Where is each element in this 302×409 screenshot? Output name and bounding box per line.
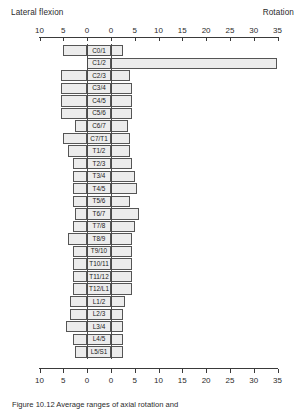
chart-row: T5/6 — [0, 196, 302, 209]
axis-tick-label: 5 — [132, 376, 136, 385]
axis-tick — [159, 369, 160, 373]
axis-tick — [254, 37, 255, 41]
axis-label-rotation: Rotation — [263, 8, 294, 17]
chart-row: C7/T1 — [0, 133, 302, 146]
bar-lateral-flexion — [61, 108, 87, 119]
bottom-axis-tick-labels: 105005101520253035 — [0, 376, 302, 386]
axis-tick — [278, 369, 279, 373]
bar-rotation — [111, 171, 135, 182]
chart-row: T12/L1 — [0, 283, 302, 296]
axis-tick-label: 30 — [249, 376, 258, 385]
segment-label: C6/7 — [92, 123, 106, 129]
top-axis: 105005101520253035 — [0, 26, 302, 44]
bar-lateral-flexion — [75, 208, 87, 219]
segment-label: T5/6 — [93, 198, 106, 204]
axis-tick-label: 10 — [35, 26, 44, 35]
figure-container: Lateral flexion Rotation 105005101520253… — [0, 0, 302, 409]
segment-label: T9/10 — [91, 248, 107, 254]
chart-row: L5/S1 — [0, 346, 302, 359]
segment-label: T11/12 — [89, 273, 108, 279]
chart-row: T1/2 — [0, 145, 302, 158]
axis-tick — [206, 37, 207, 41]
bar-rotation — [111, 283, 132, 294]
chart-row: C1/2 — [0, 58, 302, 71]
chart-row: T4/5 — [0, 183, 302, 196]
bar-rotation — [111, 296, 125, 307]
segment-label: T12/L1 — [89, 286, 109, 292]
segment-label: T8/9 — [93, 236, 106, 242]
chart-row: L3/4 — [0, 321, 302, 334]
axis-tick-label: 35 — [273, 26, 282, 35]
bar-rotation — [111, 133, 130, 144]
bar-lateral-flexion — [68, 233, 87, 244]
segment-label: C5/6 — [92, 110, 106, 116]
segment-label: L4/5 — [93, 336, 105, 342]
axis-tick-label: 5 — [132, 26, 136, 35]
axis-tick-label: 30 — [249, 26, 258, 35]
axis-tick-label: 35 — [273, 376, 282, 385]
segment-label: L1/2 — [93, 298, 105, 304]
bar-rotation — [111, 108, 132, 119]
axis-tick-label: 15 — [178, 26, 187, 35]
bar-lateral-flexion — [61, 83, 87, 94]
chart-row: L2/3 — [0, 309, 302, 322]
axis-tick-label: 0 — [85, 26, 89, 35]
segment-label: C2/3 — [92, 73, 106, 79]
axis-tick — [159, 37, 160, 41]
bar-lateral-flexion — [68, 145, 87, 156]
bar-lateral-flexion — [70, 296, 87, 307]
axis-tick — [182, 369, 183, 373]
axis-tick — [111, 37, 112, 41]
segment-label: C4/5 — [92, 98, 106, 104]
axis-tick — [63, 37, 64, 41]
bar-rotation — [111, 83, 132, 94]
left-reference-line — [87, 44, 88, 359]
axis-tick — [40, 369, 41, 373]
bar-lateral-flexion — [75, 120, 87, 131]
bar-rotation — [111, 334, 123, 345]
chart-row: C4/5 — [0, 95, 302, 108]
bar-lateral-flexion — [73, 334, 87, 345]
axis-tick-label: 0 — [109, 376, 113, 385]
bar-lateral-flexion — [61, 95, 87, 106]
axis-tick — [206, 369, 207, 373]
axis-tick-label: 10 — [154, 376, 163, 385]
segment-label: T1/2 — [93, 148, 106, 154]
axis-tick-label: 20 — [202, 376, 211, 385]
axis-tick — [40, 37, 41, 41]
bar-rotation — [111, 246, 132, 257]
segment-label: T3/4 — [93, 173, 106, 179]
bar-rotation — [111, 221, 135, 232]
chart-plot-area: C0/1C1/2C2/3C3/4C4/5C5/6C6/7C7/T1T1/2T2/… — [0, 44, 302, 366]
bottom-axis: 105005101520253035 — [0, 368, 302, 386]
figure-caption: Figure 10.12 Average ranges of axial rot… — [12, 400, 292, 409]
segment-label: L2/3 — [93, 311, 105, 317]
bar-rotation — [111, 196, 130, 207]
bar-lateral-flexion — [73, 246, 87, 257]
bar-rotation — [111, 95, 132, 106]
chart-row: C6/7 — [0, 120, 302, 133]
bar-rotation — [111, 346, 123, 357]
segment-label: T7/8 — [93, 223, 106, 229]
top-axis-tick-labels: 105005101520253035 — [0, 26, 302, 36]
bar-lateral-flexion — [73, 271, 87, 282]
chart-row: C2/3 — [0, 70, 302, 83]
axis-tick-label: 25 — [225, 376, 234, 385]
bar-lateral-flexion — [66, 321, 87, 332]
bar-rotation — [111, 183, 137, 194]
chart-row: T10/11 — [0, 258, 302, 271]
axis-tick — [230, 37, 231, 41]
segment-label: T6/7 — [93, 211, 106, 217]
bar-lateral-flexion — [73, 183, 87, 194]
segment-label: C3/4 — [92, 85, 106, 91]
axis-tick-label: 5 — [61, 26, 65, 35]
bar-lateral-flexion — [63, 133, 87, 144]
bar-rotation — [111, 45, 123, 56]
axis-tick — [278, 37, 279, 41]
bar-rotation — [111, 70, 130, 81]
axis-tick — [63, 369, 64, 373]
bar-lateral-flexion — [63, 45, 87, 56]
segment-label: C0/1 — [92, 47, 106, 53]
axis-tick — [135, 37, 136, 41]
axis-tick — [182, 37, 183, 41]
